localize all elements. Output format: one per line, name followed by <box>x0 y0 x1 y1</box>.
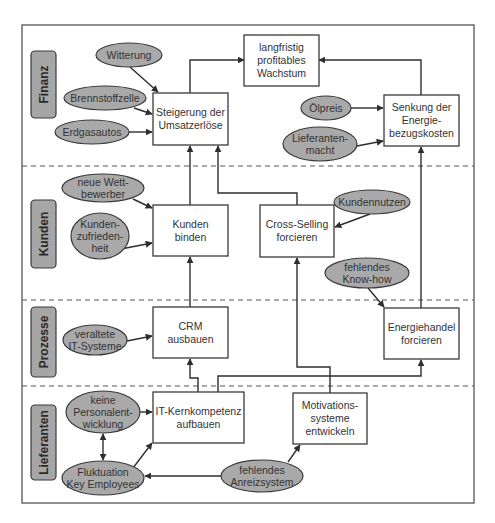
node-text-line: profitables <box>257 54 305 66</box>
factor-ellipse-zufriedenheit: Kunden-zufrieden-heit <box>71 213 129 259</box>
factor-ellipse-kundennutzen: Kundennutzen <box>334 190 410 214</box>
node-text-line: Motivations- <box>302 399 359 411</box>
arrow-umsatz-to-wachstum <box>190 60 244 93</box>
factor-ellipse-lieferantenmacht: Lieferanten-macht <box>283 127 357 161</box>
factor-ellipse-fluktuation: FluktuationKey Employees <box>62 461 144 495</box>
node-text-line: Fluktuation <box>77 466 129 478</box>
node-text-line: neue Wett- <box>77 176 129 188</box>
lane-label-prozesse: Prozesse <box>31 307 56 377</box>
arrow-motivation-to-crossselling <box>297 258 330 393</box>
objective-box-energiehandel: Energiehandelforcieren <box>384 308 459 359</box>
lane-label-text: Prozesse <box>37 315 51 368</box>
objective-box-crm: CRMausbauen <box>153 307 228 358</box>
node-text-line: aufbauen <box>177 418 221 430</box>
arrow-wettbewerber-to-kundenbinden <box>133 199 152 208</box>
node-text-line: Umsatzerlöse <box>158 119 222 131</box>
node-text-line: veraltete <box>75 328 115 340</box>
node-text-line: CRM <box>179 320 203 332</box>
arrow-itsysteme-to-crm <box>127 336 152 341</box>
node-text-line: Brennstoffzelle <box>70 92 139 104</box>
node-text-line: Energie- <box>402 114 442 126</box>
node-text-line: wicklung <box>82 418 123 430</box>
node-text-line: Know-how <box>342 273 391 285</box>
factor-ellipse-wettbewerber: neue Wett-bewerber <box>62 174 144 202</box>
lane-label-kunden: Kunden <box>31 200 56 268</box>
arrow-anreiz-to-motivation <box>288 445 300 462</box>
arrow-crossselling-to-umsatz <box>218 146 297 205</box>
node-text-line: binden <box>175 231 207 243</box>
node-text-line: Key Employees <box>67 478 140 490</box>
node-text-line: Kunden <box>172 218 208 230</box>
node-text-line: bewerber <box>81 188 125 200</box>
lane-label-text: Finanz <box>37 66 51 104</box>
factor-ellipse-personal: keinePersonalent-wicklung <box>66 391 140 433</box>
factor-ellipse-witterung: Witterung <box>96 43 162 67</box>
node-text-line: fehlendes <box>344 261 390 273</box>
factor-ellipse-brennstoffzelle: Brennstoffzelle <box>64 86 146 110</box>
node-text-line: Cross-Selling <box>266 218 329 230</box>
arrow-energiekosten-to-wachstum <box>319 60 421 95</box>
node-text-line: fehlendes <box>239 464 285 476</box>
arrow-itkern-to-energiehandel <box>218 360 421 392</box>
node-text-line: Wachstum <box>257 67 306 79</box>
arrow-witterung-to-umsatz <box>130 67 158 92</box>
node-text-line: Kundennutzen <box>338 196 406 208</box>
node-text-line: entwickeln <box>305 425 354 437</box>
arrow-itkern-to-crm <box>190 359 198 392</box>
objective-box-kundenbinden: Kundenbinden <box>153 205 228 256</box>
nodes: Steigerung derUmsatzerlöselangfristigpro… <box>55 35 459 495</box>
node-text-line: Witterung <box>107 49 152 61</box>
lane-label-text: Lieferanten <box>37 410 51 475</box>
node-text-line: Erdgasautos <box>63 126 122 138</box>
lane-label-finanz: Finanz <box>31 51 56 118</box>
lane-label-text: Kunden <box>37 212 51 257</box>
arrow-brennstoffzelle-to-umsatz <box>134 108 152 114</box>
objective-box-umsatz: Steigerung derUmsatzerlöse <box>153 93 228 145</box>
node-text-line: systeme <box>310 412 349 424</box>
node-text-line: Personalent- <box>73 406 133 418</box>
factor-ellipse-erdgasautos: Erdgasautos <box>55 120 129 144</box>
node-text-line: zufrieden- <box>77 230 124 242</box>
node-text-line: Anreizsystem <box>230 476 293 488</box>
node-text-line: langfristig <box>259 41 304 53</box>
node-text-line: Steigerung der <box>156 106 225 118</box>
factor-ellipse-itsysteme: veralteteIT-Systeme <box>63 325 127 355</box>
node-text-line: keine <box>90 394 115 406</box>
node-text-line: Kunden- <box>80 218 120 230</box>
node-text-line: Ölpreis <box>309 102 342 114</box>
lane-label-lieferanten: Lieferanten <box>31 405 56 480</box>
node-text-line: Energiehandel <box>388 321 456 333</box>
node-text-line: forcieren <box>401 334 442 346</box>
objective-box-crossselling: Cross-Sellingforcieren <box>260 205 334 257</box>
node-text-line: Senkung der <box>392 101 452 113</box>
node-text-line: ausbauen <box>167 333 213 345</box>
arrow-kundennutzen-to-crossselling <box>335 214 370 227</box>
arrow-knowhow-to-energiehandel <box>368 288 384 307</box>
factor-ellipse-knowhow: fehlendesKnow-how <box>325 258 409 288</box>
arrow-lieferantenmacht-to-energiekosten <box>357 141 383 146</box>
node-text-line: IT-Kernkompetenz <box>156 405 242 417</box>
node-text-line: macht <box>306 144 335 156</box>
node-text-line: forcieren <box>277 231 318 243</box>
objective-box-energiekosten: Senkung derEnergie-bezugskosten <box>384 95 459 146</box>
node-text-line: bezugskosten <box>389 127 454 139</box>
objective-box-motivation: Motivations-systemeentwickeln <box>293 393 367 444</box>
node-text-line: heit <box>92 242 109 254</box>
objective-box-itkern: IT-Kernkompetenzaufbauen <box>153 392 244 443</box>
objective-box-wachstum: langfristigprofitablesWachstum <box>244 35 319 86</box>
factor-ellipse-anreiz: fehlendesAnreizsystem <box>221 460 303 492</box>
factor-ellipse-oelpreis: Ölpreis <box>301 96 351 120</box>
strategy-map: Finanz Kunden Prozesse Lieferanten Steig… <box>0 0 495 523</box>
node-text-line: Lieferanten- <box>292 132 349 144</box>
node-text-line: IT-Systeme <box>68 340 121 352</box>
arrow-fluktuation-to-itkern <box>133 443 152 468</box>
